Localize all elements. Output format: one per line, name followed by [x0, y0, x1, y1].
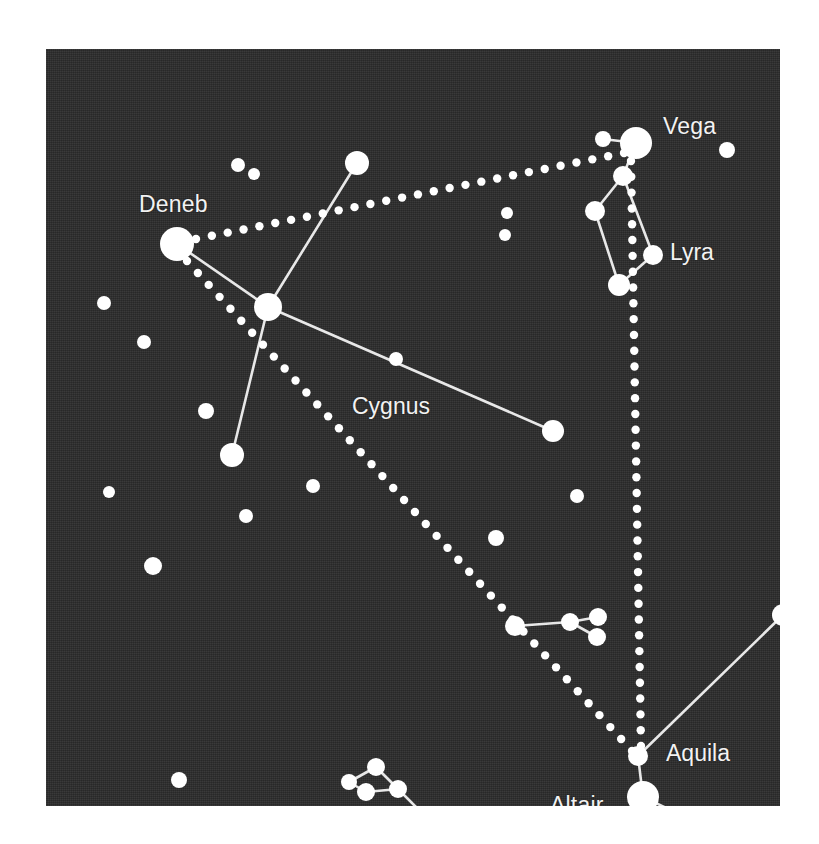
dotted-line-dot — [334, 206, 342, 214]
dotted-line-dot — [255, 222, 263, 230]
dotted-line-dot — [636, 679, 644, 687]
star-aquila-wing-tip — [772, 604, 780, 626]
star-star-mid-top-a — [501, 207, 513, 219]
star-star-left-edge-d — [103, 486, 115, 498]
dotted-line-dot — [239, 225, 247, 233]
summer-triangle-dotted-lines-group — [183, 149, 645, 755]
dotted-line-dot — [530, 639, 538, 647]
label-aquila: Aquila — [666, 742, 730, 765]
dotted-line-dot — [630, 331, 638, 339]
dotted-line-dot — [465, 568, 473, 576]
dotted-line-dot — [356, 448, 364, 456]
sky-background-panel: Vega Deneb Lyra Cygnus Aquila Altair — [46, 49, 780, 806]
dotted-line-dot — [563, 675, 571, 683]
star-star-bottom-left — [171, 772, 187, 788]
dotted-line-dot — [541, 651, 549, 659]
dotted-line-dot — [398, 193, 406, 201]
dotted-line-dot — [628, 220, 636, 228]
dotted-line-dot — [411, 508, 419, 516]
dotted-line-dot — [259, 340, 267, 348]
dotted-line-dot — [588, 155, 596, 163]
star-altair — [627, 781, 659, 806]
constellation-line-aquila-tarazed-wing — [638, 615, 780, 756]
star-star-left-edge-a — [97, 296, 111, 310]
dotted-line-dot — [635, 615, 643, 623]
label-deneb: Deneb — [139, 193, 208, 216]
dotted-line-dot — [414, 190, 422, 198]
dotted-line-dot — [572, 158, 580, 166]
star-star-left-edge-e — [144, 557, 162, 575]
dotted-line-dot — [632, 457, 640, 465]
dotted-line-dot — [584, 699, 592, 707]
dotted-line-dot — [633, 536, 641, 544]
dotted-line-dot — [636, 710, 644, 718]
dotted-line-dot — [205, 281, 213, 289]
dotted-line-dot — [389, 484, 397, 492]
dotted-line-dot — [634, 552, 642, 560]
star-star-center-field-b — [488, 530, 504, 546]
constellation-line-cygnus-sadr-delta — [268, 163, 357, 307]
dotted-line-dot — [432, 532, 440, 540]
dotted-line-dot — [631, 378, 639, 386]
dotted-line-dot — [454, 556, 462, 564]
dotted-line-dot — [302, 388, 310, 396]
dotted-line-dot — [335, 424, 343, 432]
dotted-line-dot — [574, 687, 582, 695]
dotted-line-dot — [631, 394, 639, 402]
dotted-line-dot — [552, 663, 560, 671]
dotted-line-dot — [631, 426, 639, 434]
dotted-line-triangle-altair-deneb — [183, 257, 636, 755]
star-star-top-a — [231, 158, 245, 172]
dotted-line-dot — [525, 168, 533, 176]
dotted-line-dot — [635, 631, 643, 639]
star-lyra-delta — [585, 201, 605, 221]
dotted-line-dot — [324, 412, 332, 420]
star-cygnus-epsilon — [542, 420, 564, 442]
dotted-line-dot — [595, 711, 603, 719]
dotted-line-dot — [319, 209, 327, 217]
star-delphinus-b — [367, 758, 385, 776]
dotted-line-dot — [634, 584, 642, 592]
dotted-line-triangle-vega-altair — [627, 157, 645, 750]
dotted-line-triangle-deneb-vega — [192, 149, 628, 243]
dotted-line-dot — [313, 400, 321, 408]
dotted-line-dot — [270, 352, 278, 360]
dotted-line-dot — [367, 460, 375, 468]
star-vega-companion-epsilon — [595, 131, 611, 147]
dotted-line-dot — [629, 299, 637, 307]
star-field-svg — [46, 49, 780, 806]
star-lyra-zeta — [613, 166, 633, 186]
dotted-line-dot — [224, 228, 232, 236]
label-cygnus: Cygnus — [352, 395, 430, 418]
dotted-line-dot — [617, 735, 625, 743]
dotted-line-dot — [632, 489, 640, 497]
dotted-line-dot — [350, 203, 358, 211]
star-cygnus-delta — [345, 151, 369, 175]
dotted-line-dot — [208, 232, 216, 240]
dotted-line-dot — [634, 600, 642, 608]
dotted-line-dot — [633, 505, 641, 513]
dotted-line-dot — [476, 579, 484, 587]
star-delphinus-d — [389, 780, 407, 798]
dotted-line-dot — [346, 436, 354, 444]
star-delphinus-a — [341, 774, 357, 790]
dotted-line-dot — [606, 723, 614, 731]
star-star-upper-right-edge — [719, 142, 735, 158]
star-lyra-gamma — [643, 245, 663, 265]
dotted-line-dot — [636, 694, 644, 702]
dotted-line-dot — [477, 177, 485, 185]
dotted-line-dot — [634, 568, 642, 576]
dotted-line-dot — [628, 236, 636, 244]
dotted-line-dot — [303, 213, 311, 221]
star-star-mid-top-b — [499, 229, 511, 241]
dotted-line-dot — [443, 544, 451, 552]
dotted-line-dot — [604, 152, 612, 160]
dotted-line-dot — [541, 165, 549, 173]
star-star-top-b — [248, 168, 260, 180]
dotted-line-dot — [382, 197, 390, 205]
star-aquila-tarazed — [628, 746, 648, 766]
star-cygnus-albireo — [220, 443, 244, 467]
star-sagitta-d — [588, 628, 606, 646]
star-sagitta-a — [505, 616, 525, 636]
dotted-line-dot — [631, 410, 639, 418]
